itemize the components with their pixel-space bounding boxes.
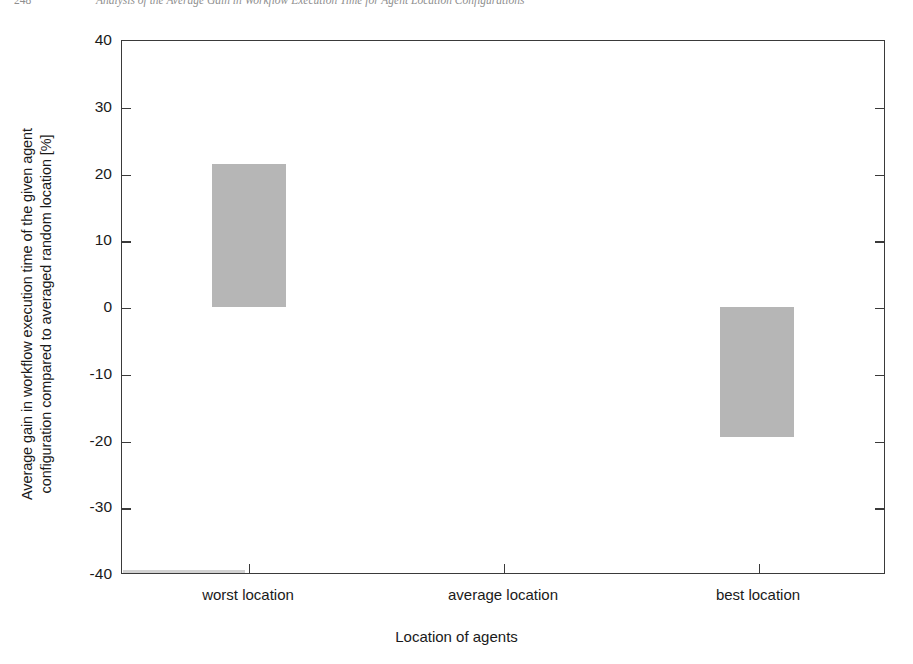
x-tick-label-best: best location	[716, 586, 800, 603]
y-tick-mark	[122, 442, 131, 443]
x-tick-mark	[759, 564, 760, 573]
y-tick-mark	[122, 308, 131, 309]
page-number: 248	[14, 0, 31, 6]
y-tick-label: 0	[60, 299, 112, 315]
y-axis-tick-labels: 40 30 20 10 0 -10 -20 -30 -40	[60, 40, 112, 574]
y-tick-mark	[122, 375, 131, 376]
y-tick-mark	[875, 241, 884, 242]
y-tick-label: -20	[60, 433, 112, 449]
x-axis-tick-labels: worst location average location best loc…	[121, 586, 885, 610]
y-tick-mark	[875, 508, 884, 509]
y-tick-label: -30	[60, 500, 112, 516]
y-tick-label: 10	[60, 233, 112, 249]
x-axis-title: Location of agents	[0, 628, 913, 645]
y-tick-mark	[122, 175, 131, 176]
running-title: Analysis of the Average Gain in Workflow…	[96, 0, 524, 6]
y-tick-mark	[875, 442, 884, 443]
y-tick-label: 20	[60, 166, 112, 182]
y-axis-title-line2: configuration compared to averaged rando…	[38, 135, 54, 494]
x-tick-mark	[249, 564, 250, 573]
bar-best-location	[720, 307, 794, 437]
y-tick-label: -10	[60, 366, 112, 382]
x-tick-label-worst: worst location	[202, 586, 294, 603]
y-tick-mark	[122, 241, 131, 242]
y-tick-mark	[122, 108, 131, 109]
y-tick-mark	[122, 508, 131, 509]
print-artifact	[123, 570, 245, 573]
y-tick-label: -40	[60, 566, 112, 582]
page-running-head: 248 Analysis of the Average Gain in Work…	[0, 0, 913, 8]
bar-worst-location	[212, 164, 286, 307]
y-axis-title-line1: Average gain in workflow execution time …	[19, 128, 35, 500]
y-tick-label: 40	[60, 32, 112, 48]
plot-area	[121, 40, 885, 574]
y-tick-mark	[875, 375, 884, 376]
figure: 248 Analysis of the Average Gain in Work…	[0, 0, 913, 664]
y-tick-mark	[875, 175, 884, 176]
y-tick-label: 30	[60, 99, 112, 115]
y-tick-mark	[875, 108, 884, 109]
y-axis-title: Average gain in workflow execution time …	[18, 34, 56, 594]
y-tick-mark	[875, 308, 884, 309]
x-tick-label-average: average location	[448, 586, 558, 603]
x-tick-mark	[504, 564, 505, 573]
